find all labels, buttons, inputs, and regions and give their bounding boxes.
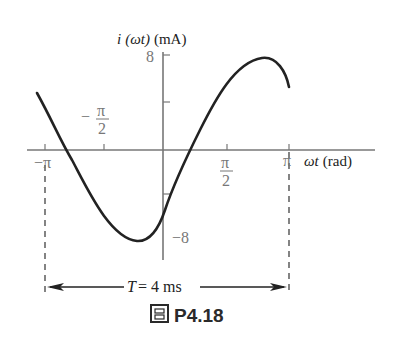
caption-label: P4.18 [174,305,224,326]
figure-caption: 圖 P4.18 [151,305,224,326]
x-tick-label-neg-half-pi: − π 2 [81,102,109,137]
chart: i(ωt)(mA) 8 −8 −π − π 2 π 2 π ωt(rad) T=… [0,0,402,343]
y-tick-label-8: 8 [146,48,154,65]
y-tick-label-neg8: −8 [172,229,189,246]
x-tick-label-half-pi: π 2 [220,154,233,189]
x-tick-label-neg-pi: −π [34,154,51,171]
period-label: T= 4 ms [127,278,182,295]
ylabel: i(ωt)(mA) [117,31,186,48]
x-tick-label-pi: π [283,152,291,169]
svg-text:−: − [81,108,90,125]
xlabel: ωt(rad) [304,153,352,170]
svg-text:2: 2 [222,172,230,189]
svg-text:π: π [97,102,105,119]
svg-text:π: π [221,154,229,171]
svg-text:2: 2 [98,120,106,137]
